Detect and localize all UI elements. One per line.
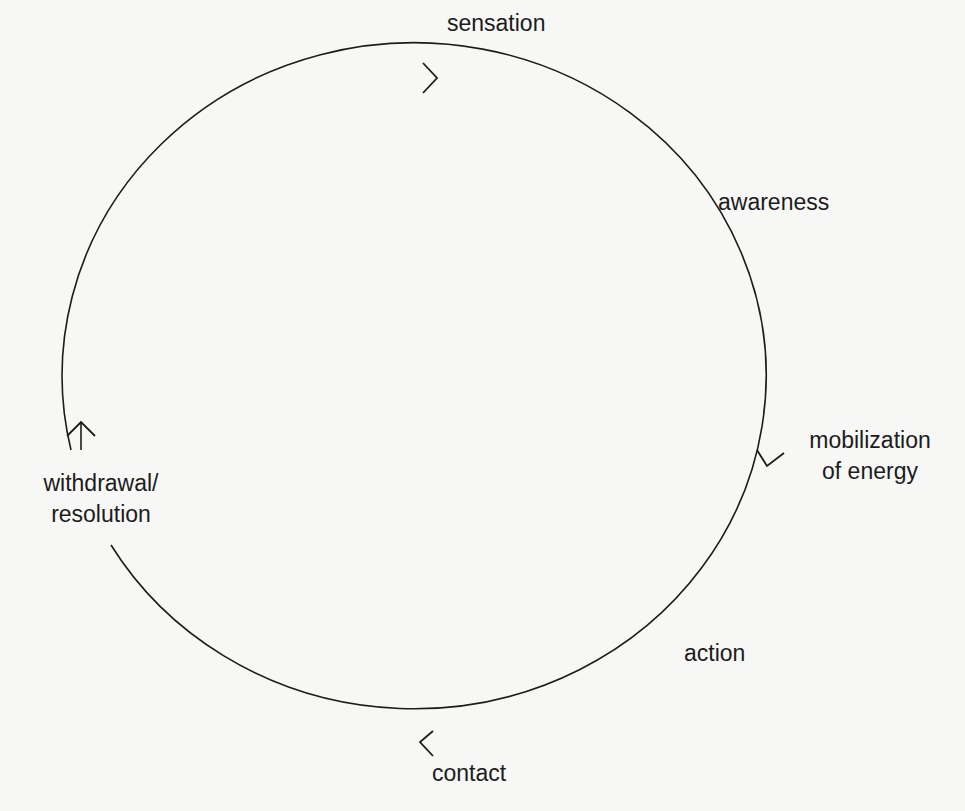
stage-label-action: action [684, 638, 745, 669]
stage-label-withdrawal-line2: resolution [26, 499, 176, 530]
stage-label-mobilization-line2: of energy [790, 456, 950, 487]
arrow-down-icon [757, 450, 784, 466]
stage-label-contact: contact [432, 758, 506, 789]
stage-label-sensation: sensation [447, 8, 545, 39]
arrow-up-icon [67, 422, 95, 450]
stage-label-withdrawal-line1: withdrawal/ [26, 468, 176, 499]
cycle-circle [0, 0, 965, 811]
arrow-left-icon [420, 731, 433, 756]
cycle-diagram: sensation awareness mobilization of ener… [0, 0, 965, 811]
stage-label-mobilization: mobilization of energy [790, 425, 950, 487]
stage-label-awareness: awareness [718, 187, 829, 218]
stage-label-mobilization-line1: mobilization [790, 425, 950, 456]
arrow-right-icon [423, 63, 437, 93]
stage-label-withdrawal: withdrawal/ resolution [26, 468, 176, 530]
cycle-path [62, 43, 766, 709]
